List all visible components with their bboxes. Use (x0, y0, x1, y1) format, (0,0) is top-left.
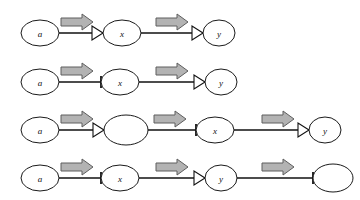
diagram-edge (59, 76, 101, 88)
node-x: x (196, 117, 234, 143)
edge-arrowhead-icon (92, 26, 103, 40)
node-label: x (119, 29, 124, 39)
node-unlabeled (313, 164, 353, 192)
node-label: y (218, 78, 223, 88)
node-label: a (38, 29, 43, 39)
edge-arrowhead-icon (93, 123, 104, 137)
node-y: y (205, 165, 237, 191)
node-label: x (212, 126, 217, 136)
block-arrow-right-icon (156, 63, 188, 79)
edge-arrowhead-icon (194, 75, 205, 89)
node-a: a (21, 117, 59, 143)
node-x: x (101, 69, 139, 95)
diagram-rows-layer: axyaxyaxyaxy (21, 14, 353, 192)
node-a: a (21, 69, 59, 95)
diagram-canvas: axyaxyaxyaxy (0, 0, 360, 200)
node-label: a (38, 78, 43, 88)
block-arrow-right-icon (61, 111, 93, 127)
node-label: y (322, 126, 327, 136)
block-arrow-right-icon (262, 111, 294, 127)
node-y: y (309, 117, 341, 143)
edge-arrowhead-icon (192, 26, 203, 40)
diagram-row: axy (21, 14, 235, 46)
block-arrow-right-icon (154, 111, 186, 127)
edge-arrowhead-icon (194, 171, 205, 185)
path-diagram-figure: axyaxyaxyaxy (0, 0, 360, 200)
block-arrow-right-icon (156, 14, 188, 30)
node-y: y (203, 20, 235, 46)
node-label: y (218, 174, 223, 184)
node-a: a (21, 20, 59, 46)
node-label: x (117, 174, 122, 184)
block-arrow-right-icon (61, 14, 93, 30)
block-arrow-right-icon (61, 63, 93, 79)
diagram-edge (141, 26, 203, 40)
diagram-row: axy (21, 111, 341, 145)
node-ellipse (313, 164, 353, 192)
node-label: a (38, 126, 43, 136)
node-a: a (21, 165, 59, 191)
block-arrow-right-icon (262, 159, 294, 175)
diagram-row: axy (21, 63, 237, 95)
diagram-edge (59, 26, 103, 40)
block-arrow-right-icon (156, 159, 188, 175)
diagram-edge (234, 123, 309, 137)
node-x: x (103, 20, 141, 46)
block-arrow-right-icon (61, 159, 93, 175)
edge-arrowhead-icon (298, 123, 309, 137)
diagram-edge (148, 124, 196, 136)
node-label: y (216, 29, 221, 39)
node-label: x (117, 78, 122, 88)
diagram-edge (237, 172, 313, 184)
diagram-edge (139, 171, 205, 185)
diagram-edge (139, 75, 205, 89)
diagram-row: axy (21, 159, 353, 192)
node-label: a (38, 174, 43, 184)
node-y: y (205, 69, 237, 95)
node-unlabeled (104, 115, 148, 145)
diagram-edge (59, 172, 101, 184)
node-ellipse (104, 115, 148, 145)
node-x: x (101, 165, 139, 191)
